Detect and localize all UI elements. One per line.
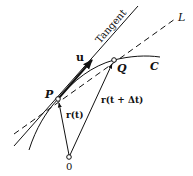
point-Q-marker <box>112 58 117 63</box>
origin-marker <box>67 155 72 160</box>
label-Q: Q <box>117 62 127 75</box>
label-u: u <box>76 51 84 64</box>
tangent-line <box>14 6 138 146</box>
vector-u-arrow <box>58 60 92 99</box>
label-origin: 0 <box>66 161 72 172</box>
point-P-marker <box>56 97 61 102</box>
label-P: P <box>44 88 54 101</box>
label-rtdt: r(t + Δt) <box>101 95 143 105</box>
label-tangent: Tangent <box>93 7 128 45</box>
tangent-vector-diagram: Tangent L C P Q 0 u r(t) r(t + Δt) <box>0 0 193 176</box>
label-rt: r(t) <box>66 110 83 120</box>
label-L: L <box>177 11 185 24</box>
label-C: C <box>150 60 159 73</box>
